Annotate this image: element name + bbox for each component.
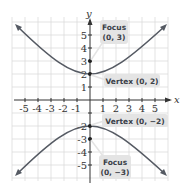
- svg-text:3: 3: [126, 103, 132, 114]
- y-axis: [88, 20, 92, 183]
- x-tick-labels: -5 -4 -3 -2 -1 1 2 3 4 5: [19, 103, 158, 114]
- svg-text:-2: -2: [58, 103, 68, 114]
- y-axis-arrow-icon: [88, 18, 93, 25]
- svg-text:-3: -3: [45, 103, 55, 114]
- y-axis-label: y: [85, 8, 92, 19]
- x-axis-label: x: [174, 94, 180, 105]
- callout-vertex-top: Vertex (0, 2): [104, 74, 160, 87]
- svg-text:Focus: Focus: [103, 158, 128, 167]
- svg-text:4: 4: [81, 43, 87, 54]
- svg-text:-4: -4: [77, 147, 87, 158]
- callout-vertex-bottom: Vertex (0, −2): [102, 114, 168, 127]
- svg-text:5: 5: [152, 103, 158, 114]
- svg-text:-3: -3: [77, 134, 87, 145]
- hyperbola-chart: x y -5 -4 -3 -2 -1 1 2 3 4 5 5 4 3 2 1 -…: [0, 0, 183, 193]
- x-axis-arrow-icon: [165, 98, 172, 103]
- svg-text:-5: -5: [19, 103, 29, 114]
- callout-focus-top: Focus (0, 3): [100, 20, 128, 44]
- svg-text:2: 2: [113, 103, 119, 114]
- svg-text:-4: -4: [32, 103, 42, 114]
- svg-text:1: 1: [100, 103, 106, 114]
- svg-text:Vertex (0, 2): Vertex (0, 2): [105, 77, 158, 86]
- x-axis: [14, 98, 170, 102]
- svg-text:4: 4: [139, 103, 145, 114]
- svg-text:-1: -1: [71, 103, 81, 114]
- svg-text:Focus: Focus: [102, 23, 127, 32]
- svg-text:-5: -5: [77, 160, 87, 171]
- svg-text:(0, 3): (0, 3): [103, 33, 126, 42]
- svg-text:5: 5: [81, 30, 87, 41]
- callout-focus-bottom: Focus (0, −3): [99, 155, 131, 179]
- svg-text:Vertex (0, −2): Vertex (0, −2): [105, 117, 164, 126]
- svg-text:1: 1: [81, 82, 87, 93]
- svg-text:(0, −3): (0, −3): [100, 168, 129, 177]
- svg-text:3: 3: [81, 56, 87, 67]
